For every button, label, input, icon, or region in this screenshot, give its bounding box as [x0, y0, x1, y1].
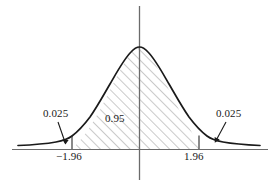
left-tail-area-label: 0.025: [43, 107, 68, 119]
shaded-central-region: [70, 40, 201, 150]
normal-distribution-figure: 0.025 0.95 0.025 −1.96 1.96: [0, 0, 279, 183]
distribution-plot-svg: [0, 0, 279, 183]
right-tail-leader-arrow: [215, 122, 226, 143]
central-area-label: 0.95: [105, 112, 125, 124]
x-axis-tick-label-negative-1-96: −1.96: [56, 150, 82, 162]
right-tail-area-label: 0.025: [216, 107, 241, 119]
x-axis-tick-label-positive-1-96: 1.96: [184, 150, 204, 162]
